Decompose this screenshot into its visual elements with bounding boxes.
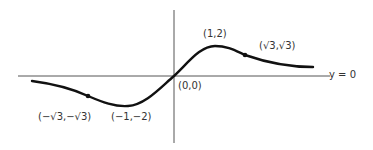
- label-minimum: (−1,−2): [111, 112, 151, 122]
- label-neg-sqrt3: (−√3,−√3): [38, 112, 91, 122]
- point-neg-sqrt3-marker: [86, 94, 91, 99]
- label-asymptote: y = 0: [329, 70, 356, 80]
- label-pos-sqrt3: (√3,√3): [259, 41, 295, 51]
- graph-canvas: [0, 0, 373, 150]
- label-origin: (0,0): [178, 81, 202, 91]
- point-pos-sqrt3-marker: [243, 53, 248, 58]
- label-maximum: (1,2): [203, 29, 227, 39]
